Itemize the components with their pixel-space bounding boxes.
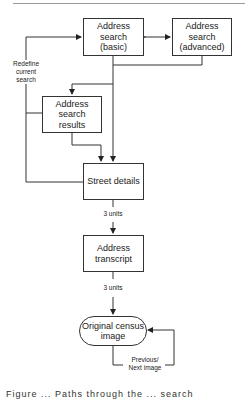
edge-label-redefine: Redefine current search bbox=[7, 60, 45, 84]
edge-label-transcript-to-census: 3 units bbox=[98, 284, 128, 292]
figure-caption: Figure ... Paths through the ... search bbox=[6, 389, 194, 399]
node-address-search-basic: Address search (basic) bbox=[83, 18, 144, 56]
node-address-search-results: Address search results bbox=[42, 96, 102, 133]
node-label: Street details bbox=[87, 176, 140, 187]
node-address-transcript: Address transcript bbox=[83, 235, 144, 272]
node-original-census-image: Original census image bbox=[79, 316, 147, 346]
edge-label-street-to-transcript: 3 units bbox=[98, 210, 128, 218]
node-label: Address search results bbox=[55, 99, 88, 131]
node-street-details: Street details bbox=[83, 163, 144, 200]
node-label: Address transcript bbox=[95, 243, 132, 264]
node-label: Address search (basic) bbox=[97, 21, 130, 53]
node-label: Original census image bbox=[82, 321, 144, 342]
edge-label-previous-next: Previous/ Next image bbox=[124, 356, 166, 372]
node-address-search-advanced: Address search (advanced) bbox=[172, 18, 232, 56]
node-label: Address search (advanced) bbox=[179, 21, 224, 53]
